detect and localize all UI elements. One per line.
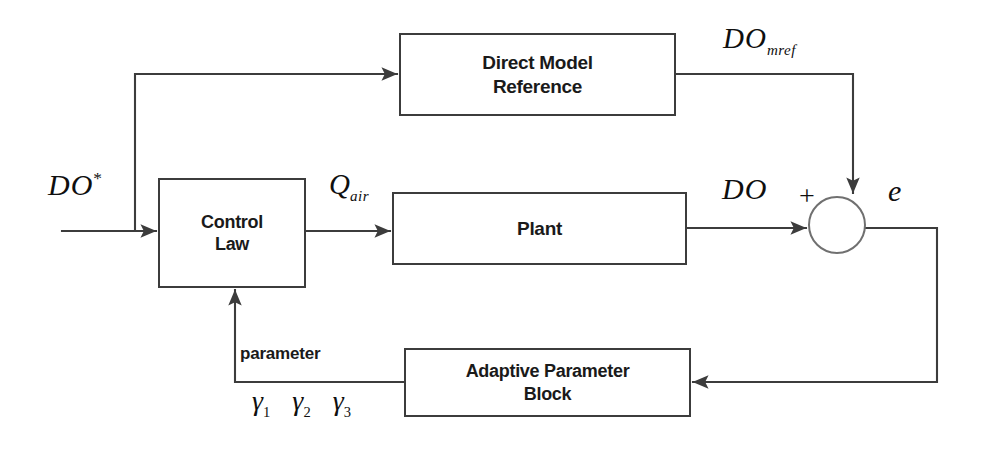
- gamma-2: γ2: [292, 385, 310, 421]
- block-adaptive-parameter-label: Adaptive Parameter Block: [466, 360, 630, 405]
- signal-plant-output-base: DO: [722, 172, 767, 205]
- signal-model-reference-subscript: mref: [767, 42, 796, 58]
- gamma-3-base: γ: [333, 385, 344, 416]
- signal-control-output-subscript: air: [350, 188, 369, 204]
- block-direct-model-reference[interactable]: Direct Model Reference: [399, 33, 676, 116]
- wire-error-to-adaptive-block: [693, 228, 937, 382]
- block-adaptive-parameter[interactable]: Adaptive Parameter Block: [404, 348, 691, 417]
- gamma-1-base: γ: [252, 385, 263, 416]
- signal-error-base: e: [888, 174, 901, 207]
- gamma-3-subscript: 3: [344, 404, 351, 420]
- summing-junction[interactable]: [808, 196, 866, 254]
- sum-plus-sign: +: [799, 180, 815, 212]
- gamma-1-subscript: 1: [263, 404, 270, 420]
- signal-model-reference-base: DO: [723, 22, 767, 54]
- signal-label-control-output: Qair: [329, 168, 369, 205]
- signal-setpoint-superscript: *: [93, 168, 103, 188]
- parameter-label: parameter: [240, 344, 320, 364]
- signal-label-plant-output: DO: [722, 172, 767, 206]
- gamma-2-base: γ: [292, 385, 303, 416]
- gamma-1: γ1: [252, 385, 270, 421]
- block-control-law-label: Control Law: [201, 211, 263, 256]
- gamma-3: γ3: [333, 385, 351, 421]
- signal-setpoint-base: DO: [48, 168, 93, 201]
- signal-control-output-base: Q: [329, 168, 350, 200]
- signal-label-model-reference-output: DOmref: [723, 22, 796, 59]
- signal-label-error: e: [888, 174, 901, 208]
- block-plant-label: Plant: [517, 217, 562, 241]
- gamma-2-subscript: 2: [303, 404, 310, 420]
- wire-parameter-to-control-law: [235, 290, 403, 382]
- gamma-parameter-list: γ1 γ2 γ3: [252, 385, 351, 421]
- block-direct-model-reference-label: Direct Model Reference: [482, 51, 592, 99]
- block-plant[interactable]: Plant: [392, 192, 687, 265]
- signal-label-setpoint: DO*: [48, 168, 103, 202]
- block-diagram-canvas: Direct Model Reference Control Law Plant…: [0, 0, 981, 449]
- block-control-law[interactable]: Control Law: [158, 178, 306, 288]
